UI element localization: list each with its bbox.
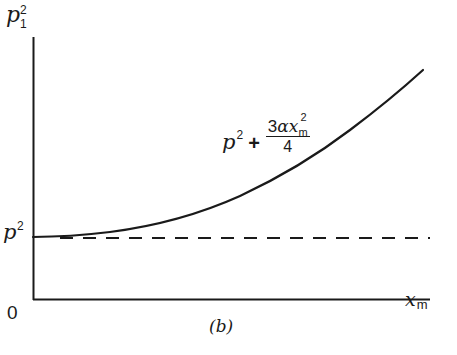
x-axis-label-base: x [405, 288, 416, 310]
reference-level-superscript: 2 [17, 220, 24, 232]
equation-p-superscript: 2 [236, 128, 243, 142]
fraction-denominator: 4 [283, 137, 292, 155]
equation-fraction: 3αxm2 4 [266, 118, 310, 155]
fraction-numerator: 3αxm2 [266, 118, 310, 137]
numerator-x-subscript: m [298, 126, 307, 138]
reference-level-label: p 2 [3, 222, 16, 243]
equation-p: p [222, 130, 235, 154]
y-axis-label: p 2 1 [6, 4, 20, 26]
numerator-coefficient: 3 [268, 117, 277, 136]
y-axis-label-superscript: 2 [20, 4, 27, 16]
numerator-x-superscript: 2 [300, 112, 306, 123]
equation-term-p-squared: p2 [222, 132, 242, 153]
x-axis-label: xm [405, 290, 427, 309]
x-axis-label-subscript: m [417, 297, 428, 312]
reference-level-base: p [3, 220, 16, 244]
y-axis-label-subscript: 1 [20, 18, 27, 30]
numerator-alpha: α [277, 116, 288, 136]
curve-equation-label: p2 + 3αxm2 4 [222, 118, 310, 155]
origin-label: 0 [7, 303, 18, 322]
diagram-canvas [0, 0, 457, 355]
equation-plus: + [248, 133, 260, 153]
figure-caption: (b) [209, 318, 233, 335]
y-axis-label-base: p [6, 2, 20, 27]
numerator-x: x [289, 116, 299, 136]
